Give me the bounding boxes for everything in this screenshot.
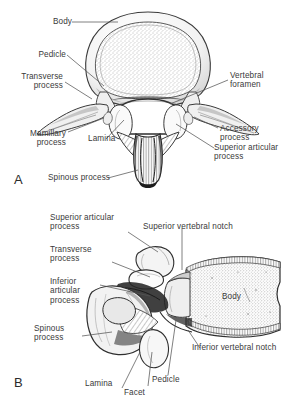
panel-letter-b: B bbox=[14, 375, 23, 390]
label-vertebral-foramen-a: Vertebral foramen bbox=[230, 71, 264, 90]
label-pedicle-a: Pedicle bbox=[2, 50, 66, 59]
panel-letter-a: A bbox=[14, 172, 23, 187]
label-inferior-articular-process-b: Inferior articular process bbox=[50, 277, 80, 305]
label-accessory-process-a: Accessory process bbox=[220, 124, 259, 143]
label-facet-b: Facet bbox=[124, 388, 145, 397]
label-lamina-b: Lamina bbox=[85, 379, 112, 388]
anatomy-figure: Body Pedicle Transverse process Mamillar… bbox=[0, 0, 298, 399]
label-body-b: Body bbox=[222, 292, 241, 301]
label-transverse-process-a: Transverse process bbox=[0, 72, 63, 91]
label-pedicle-b: Pedicle bbox=[152, 375, 180, 384]
label-superior-articular-process-a: Superior articular process bbox=[214, 143, 278, 162]
label-body-a: Body bbox=[2, 17, 72, 26]
label-spinous-process-b: Spinous process bbox=[34, 324, 64, 343]
label-mamillary-process-a: Mamillary process bbox=[0, 129, 66, 148]
label-lamina-a: Lamina bbox=[88, 134, 115, 143]
label-inferior-vertebral-notch-b: Inferior vertebral notch bbox=[192, 343, 276, 352]
label-spinous-process-a: Spinous process bbox=[48, 173, 110, 182]
label-superior-articular-process-b: Superior articular process bbox=[50, 213, 114, 232]
label-superior-vertebral-notch-b: Superior vertebral notch bbox=[143, 222, 233, 231]
label-transverse-process-b: Transverse process bbox=[50, 245, 92, 264]
panel-b-drawing bbox=[82, 228, 280, 388]
